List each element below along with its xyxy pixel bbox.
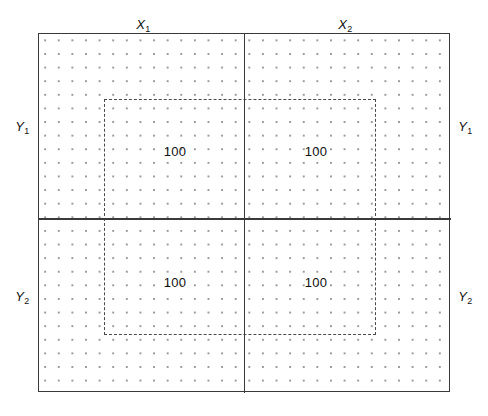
quadrant-value-bottom-left: 100 xyxy=(164,275,186,290)
quadrant-value-top-left: 100 xyxy=(164,144,186,159)
diagram-canvas: X1 X2 Y1 Y2 Y1 Y2 100 100 100 100 xyxy=(0,0,488,416)
axis-label-y2-left-letter: Y xyxy=(15,289,24,304)
axis-label-y1-right: Y1 xyxy=(458,119,472,134)
quadrant-value-bottom-right: 100 xyxy=(305,275,327,290)
axis-label-x1-letter: X xyxy=(136,17,145,32)
axis-label-x2-letter: X xyxy=(338,17,347,32)
axis-label-y1-left: Y1 xyxy=(15,119,29,134)
axis-label-y2-left: Y2 xyxy=(15,289,29,304)
horizontal-divider-line xyxy=(39,218,451,220)
axis-label-x1-subscript: 1 xyxy=(145,24,150,34)
axis-label-y1-left-subscript: 1 xyxy=(24,126,29,136)
axis-label-x2: X2 xyxy=(338,17,352,32)
axis-label-y1-right-letter: Y xyxy=(458,119,467,134)
axis-label-x2-subscript: 2 xyxy=(347,24,352,34)
axis-label-y1-right-subscript: 1 xyxy=(467,126,472,136)
vertical-divider-line xyxy=(244,34,246,393)
axis-label-x1: X1 xyxy=(136,17,150,32)
inner-dashed-rectangle xyxy=(104,99,376,335)
quadrant-value-top-right: 100 xyxy=(305,144,327,159)
outer-frame: 100 100 100 100 xyxy=(38,33,450,392)
axis-label-y2-left-subscript: 2 xyxy=(24,296,29,306)
axis-label-y2-right-letter: Y xyxy=(458,289,467,304)
axis-label-y1-left-letter: Y xyxy=(15,119,24,134)
axis-label-y2-right: Y2 xyxy=(458,289,472,304)
axis-label-y2-right-subscript: 2 xyxy=(467,296,472,306)
